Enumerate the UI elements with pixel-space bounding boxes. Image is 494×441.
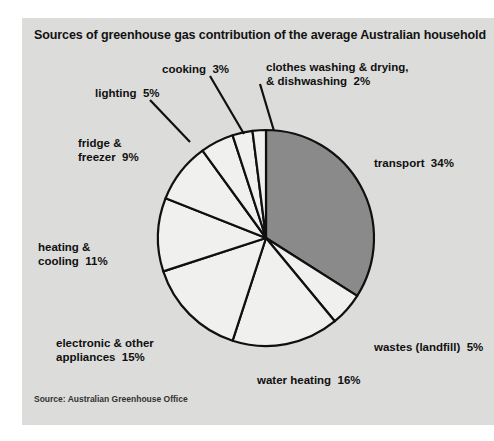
cooking-leader: [210, 76, 244, 134]
pie-label-cooking: cooking 3%: [162, 62, 229, 76]
source-note: Source: Australian Greenhouse Office: [34, 394, 188, 404]
pie-label-water-heating: water heating 16%: [257, 373, 361, 387]
pie-label-lighting: lighting 5%: [95, 86, 160, 100]
pie-label-electronic-other-appliances: electronic & other appliances 15%: [56, 336, 154, 364]
pie-label-transport: transport 34%: [374, 156, 454, 170]
pie-label-heating-cooling: heating & cooling 11%: [38, 240, 108, 268]
chart-panel: Sources of greenhouse gas contribution o…: [22, 18, 494, 425]
pie-label-wastes-landfill: wastes (landfill) 5%: [374, 340, 483, 354]
lighting-leader: [150, 100, 190, 142]
pie-slice-group: [158, 130, 374, 346]
clothes-washing-leader: [260, 84, 274, 131]
pie-label-fridge-freezer: fridge & freezer 9%: [78, 136, 139, 164]
pie-label-clothes-washing-drying-dishwashing: clothes washing & drying, & dishwashing …: [266, 60, 409, 88]
